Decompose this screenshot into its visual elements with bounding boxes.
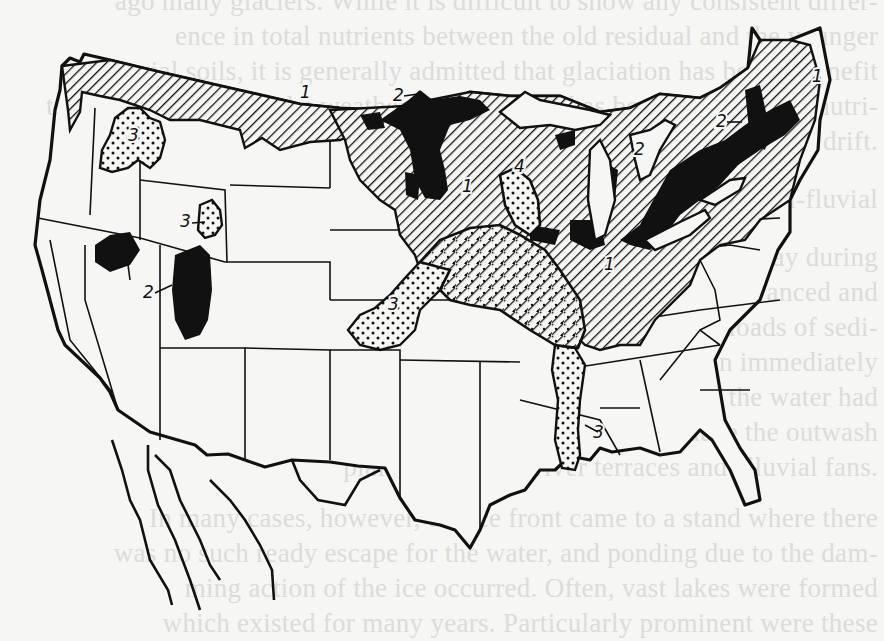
region-label-r3-mississippi: 3 bbox=[593, 422, 604, 442]
region-label-r1-indiana: 1 bbox=[604, 254, 615, 274]
region-label-r3-wyoming: 3 bbox=[180, 211, 191, 231]
region-label-r3-kansas: 3 bbox=[388, 294, 399, 314]
region-label-r3-washington: 3 bbox=[128, 125, 139, 145]
region-label-r1-montana: 1 bbox=[300, 82, 311, 102]
region-label-r4-wisconsin: 4 bbox=[514, 156, 525, 176]
mexico-coastlines bbox=[112, 440, 380, 610]
region-label-r1-maine: 1 bbox=[812, 66, 823, 86]
region-label-r2-nevada: 2 bbox=[143, 282, 154, 302]
region-label-r2-north-mn: 2 bbox=[393, 85, 404, 105]
region-label-r2-michigan: 2 bbox=[634, 139, 645, 159]
region-label-r1-minnesota: 1 bbox=[462, 176, 473, 196]
region-label-r2-new-york: 2 bbox=[716, 111, 727, 131]
